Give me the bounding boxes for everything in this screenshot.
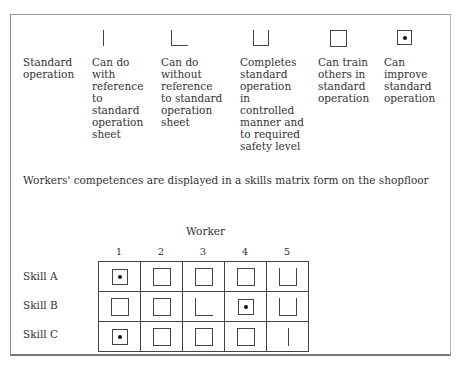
matrix-cell xyxy=(183,322,225,352)
box-icon xyxy=(195,328,213,346)
row-label-skill-c: Skill C xyxy=(23,328,58,340)
ell-icon xyxy=(195,298,213,316)
legend-dotbox-icon xyxy=(397,30,412,45)
matrix-cell xyxy=(225,292,267,322)
dotted-box-icon xyxy=(112,269,128,285)
box-icon xyxy=(153,298,171,316)
matrix-row xyxy=(99,292,309,322)
legend-label-completes: Completes standard operation in controll… xyxy=(240,56,310,152)
matrix-cell xyxy=(99,292,141,322)
matrix-cell xyxy=(141,292,183,322)
box-icon xyxy=(237,328,255,346)
legend-bar-icon xyxy=(103,30,105,46)
legend-label-without-reference: Can do without reference to standard ope… xyxy=(161,56,227,128)
matrix-cell xyxy=(141,262,183,292)
dotted-box-icon xyxy=(112,329,128,345)
legend-ell-icon xyxy=(171,30,188,46)
matrix-row xyxy=(99,262,309,292)
matrix-cell xyxy=(183,262,225,292)
skills-matrix xyxy=(98,261,309,352)
matrix-cell xyxy=(183,292,225,322)
caption: Workers' competences are displayed in a … xyxy=(23,174,429,186)
cup-icon xyxy=(279,298,297,316)
box-icon xyxy=(153,328,171,346)
box-icon xyxy=(195,268,213,286)
dotted-box-icon xyxy=(238,299,254,315)
legend-label-can-train: Can train others in standard operation xyxy=(318,56,384,104)
legend-label-with-reference: Can do with reference to standard operat… xyxy=(92,56,158,140)
legend-label-can-improve: Can improve standard operation xyxy=(384,56,450,104)
bar-icon xyxy=(288,328,290,346)
matrix-cell xyxy=(225,262,267,292)
box-icon xyxy=(111,298,129,316)
column-header-1: 1 xyxy=(98,246,140,257)
legend-box-icon xyxy=(330,30,347,47)
matrix-cell xyxy=(267,262,309,292)
column-header-2: 2 xyxy=(140,246,182,257)
column-header-4: 4 xyxy=(224,246,266,257)
cup-icon xyxy=(279,268,297,286)
box-icon xyxy=(237,268,255,286)
box-icon xyxy=(153,268,171,286)
matrix-column-title: Worker xyxy=(186,225,225,237)
row-label-skill-b: Skill B xyxy=(23,299,58,311)
matrix-cell xyxy=(141,322,183,352)
row-label-skill-a: Skill A xyxy=(23,270,58,282)
legend-label-standard-operation: Standard operation xyxy=(23,56,89,80)
column-header-3: 3 xyxy=(182,246,224,257)
matrix-cell xyxy=(267,322,309,352)
matrix-row xyxy=(99,322,309,352)
matrix-cell xyxy=(267,292,309,322)
legend-cup-icon xyxy=(253,30,269,46)
matrix-cell xyxy=(99,262,141,292)
matrix-cell xyxy=(225,322,267,352)
column-header-5: 5 xyxy=(266,246,308,257)
matrix-cell xyxy=(99,322,141,352)
